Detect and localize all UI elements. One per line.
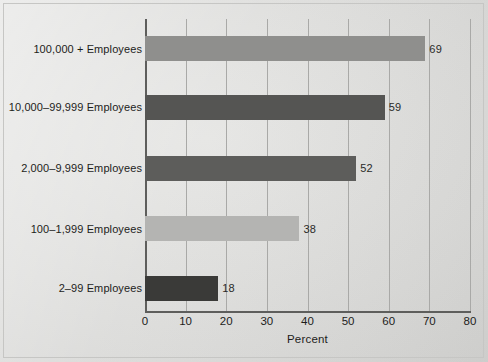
bar-value-label: 59 (389, 101, 402, 113)
bar (145, 276, 218, 301)
bar (145, 36, 425, 61)
chart-figure: 100,000 + Employees10,000–99,999 Employe… (0, 0, 488, 362)
x-tick-label: 20 (220, 315, 233, 327)
gridline (389, 19, 390, 311)
x-tick-label: 70 (423, 315, 436, 327)
x-tick-label: 40 (301, 315, 314, 327)
category-label: 100,000 + Employees (33, 43, 142, 55)
category-label: 100–1,999 Employees (31, 223, 142, 235)
bar (145, 156, 356, 181)
x-tick-label: 30 (260, 315, 273, 327)
gridline (429, 19, 430, 311)
x-tick-label: 80 (464, 315, 477, 327)
bar (145, 95, 385, 120)
category-label: 2–99 Employees (59, 282, 142, 294)
category-label: 10,000–99,999 Employees (9, 101, 142, 113)
x-tick-label: 60 (382, 315, 395, 327)
gridline (470, 19, 471, 311)
x-tick-label: 50 (342, 315, 355, 327)
bar-value-label: 52 (360, 162, 373, 174)
x-tick-label: 10 (179, 315, 192, 327)
x-axis-line (145, 311, 471, 313)
bar-value-label: 69 (429, 43, 442, 55)
x-axis-title: Percent (145, 333, 470, 345)
bar-value-label: 38 (303, 223, 316, 235)
x-tick-label: 0 (142, 315, 148, 327)
bar (145, 216, 299, 241)
category-label: 2,000–9,999 Employees (21, 162, 142, 174)
bar-value-label: 18 (222, 282, 235, 294)
plot-area (145, 19, 470, 311)
